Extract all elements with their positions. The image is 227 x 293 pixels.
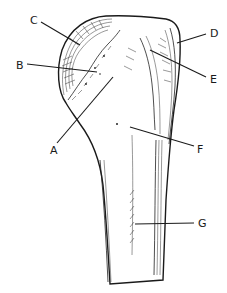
label-e: E — [210, 73, 217, 86]
label-d: D — [210, 27, 218, 40]
label-b: B — [16, 59, 24, 72]
label-f: F — [197, 143, 203, 156]
leader-line-d — [177, 34, 206, 43]
label-c: C — [30, 14, 38, 27]
label-g: G — [198, 217, 207, 230]
humerus-diagram: A B C D E F G — [0, 0, 227, 293]
label-a: A — [50, 144, 58, 157]
